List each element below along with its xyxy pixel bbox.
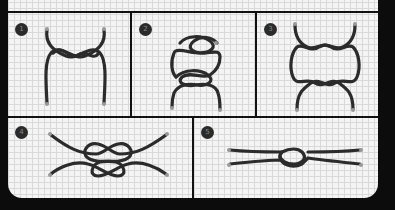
knot-step-2-illustration [132,13,255,116]
knot-step-1-illustration [8,13,130,116]
panel-step-2: 2 [132,13,255,116]
panel-step-5: 5 [194,118,378,198]
knot-step-5-illustration [194,118,378,198]
knot-step-4-illustration [8,118,192,198]
knot-step-3-illustration [257,13,378,116]
panel-step-4: 4 [8,118,192,198]
panel-step-3: 3 [257,13,378,116]
panel-step-1: 1 [8,13,130,116]
